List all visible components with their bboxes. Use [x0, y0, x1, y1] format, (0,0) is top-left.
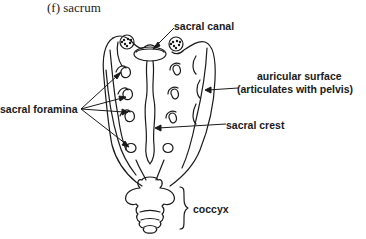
label-sacral-canal: sacral canal	[174, 20, 234, 32]
right-foramen-2	[171, 89, 179, 99]
coccyx-bone	[126, 177, 175, 233]
label-auricular-surface-note: (articulates with pelvis)	[237, 83, 353, 95]
right-foramen-3	[169, 113, 177, 123]
label-auricular-surface: auricular surface	[257, 70, 342, 82]
label-sacral-crest: sacral crest	[226, 119, 284, 131]
coccyx-brace	[180, 187, 188, 229]
right-foramen-4	[163, 144, 173, 153]
label-sacral-foramina: sacral foramina	[0, 103, 78, 115]
sacrum-illustration	[0, 0, 366, 239]
right-foramen-1	[173, 65, 181, 75]
label-coccyx: coccyx	[193, 203, 229, 215]
sacrum-diagram: (f) sacrum	[0, 0, 366, 239]
left-foramen-1	[121, 67, 130, 77]
median-crest	[145, 61, 155, 164]
articular-process-right	[169, 37, 183, 51]
